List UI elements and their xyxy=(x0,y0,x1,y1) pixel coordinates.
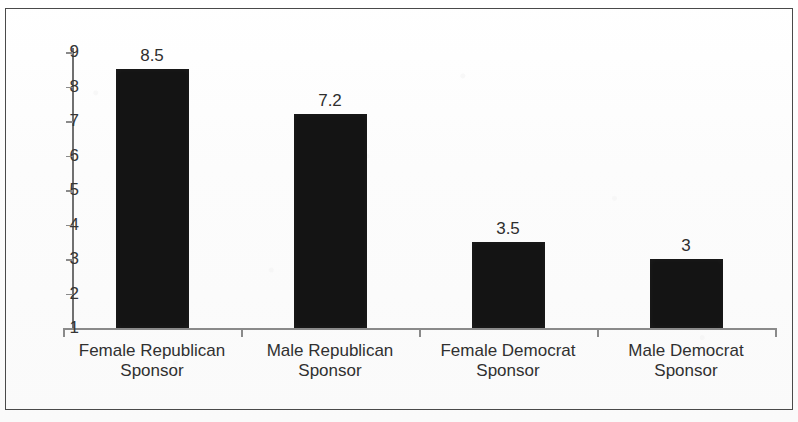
bar xyxy=(294,114,367,328)
x-axis-category-label: Male RepublicanSponsor xyxy=(241,341,419,380)
category-label-line-1: Male Democrat xyxy=(597,341,775,361)
y-tick-mark xyxy=(66,328,73,330)
bar xyxy=(116,69,189,328)
category-label-line-1: Female Republican xyxy=(63,341,241,361)
plot-area: 123456789 8.57.23.53 Female RepublicanSp… xyxy=(0,0,798,422)
x-axis-category-label: Female RepublicanSponsor xyxy=(63,341,241,380)
y-tick-label: 2 xyxy=(51,285,79,302)
x-tick-mark xyxy=(775,328,777,337)
y-tick-mark xyxy=(66,52,73,54)
bar-value-label: 7.2 xyxy=(290,92,370,109)
y-tick-label: 9 xyxy=(51,43,79,60)
y-tick-label: 3 xyxy=(51,250,79,267)
bar-chart-figure: 123456789 8.57.23.53 Female RepublicanSp… xyxy=(0,0,798,422)
x-tick-mark xyxy=(419,328,421,337)
y-tick-label: 5 xyxy=(51,181,79,198)
x-tick-mark xyxy=(597,328,599,337)
bar-value-label: 3 xyxy=(646,237,726,254)
y-tick-mark xyxy=(66,190,73,192)
x-tick-mark xyxy=(241,328,243,337)
x-tick-mark xyxy=(63,328,65,337)
bar xyxy=(650,259,723,328)
y-tick-mark xyxy=(66,225,73,227)
category-label-line-2: Sponsor xyxy=(63,361,241,381)
y-tick-mark xyxy=(66,156,73,158)
y-tick-label: 8 xyxy=(51,78,79,95)
bar-value-label: 3.5 xyxy=(468,220,548,237)
x-axis-category-label: Male DemocratSponsor xyxy=(597,341,775,380)
category-label-line-1: Male Republican xyxy=(241,341,419,361)
category-label-line-1: Female Democrat xyxy=(419,341,597,361)
y-tick-mark xyxy=(66,121,73,123)
y-tick-label: 6 xyxy=(51,147,79,164)
x-axis-category-label: Female DemocratSponsor xyxy=(419,341,597,380)
category-label-line-2: Sponsor xyxy=(419,361,597,381)
bar-value-label: 8.5 xyxy=(112,47,192,64)
y-tick-label: 4 xyxy=(51,216,79,233)
bar xyxy=(472,242,545,328)
category-label-line-2: Sponsor xyxy=(597,361,775,381)
y-tick-label: 1 xyxy=(51,319,79,336)
y-tick-mark xyxy=(66,87,73,89)
y-tick-mark xyxy=(66,259,73,261)
category-label-line-2: Sponsor xyxy=(241,361,419,381)
y-tick-label: 7 xyxy=(51,112,79,129)
y-tick-mark xyxy=(66,294,73,296)
